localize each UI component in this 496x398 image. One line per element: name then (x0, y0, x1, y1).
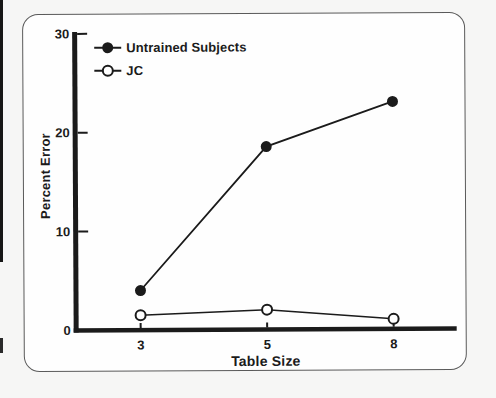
legend-label: JC (126, 63, 143, 78)
y-tick-label: 0 (63, 323, 70, 338)
legend-label: Untrained Subjects (126, 40, 246, 56)
scanned-figure: 3020100358Table SizePercent ErrorUntrain… (0, 0, 496, 398)
scan-edge-artifact-blob (0, 338, 3, 353)
y-tick-label: 20 (55, 125, 70, 140)
x-tick-label: 5 (264, 337, 271, 352)
y-tick-label: 30 (55, 26, 70, 41)
data-point-filled (387, 96, 398, 107)
x-tick-label: 8 (390, 336, 397, 351)
line-chart: 3020100358Table SizePercent ErrorUntrain… (0, 0, 496, 398)
x-axis-title: Table Size (231, 353, 301, 369)
y-axis (75, 32, 77, 332)
scan-edge-artifact (0, 0, 3, 262)
data-point-filled (135, 285, 146, 296)
data-point-open (262, 305, 272, 315)
y-tick-label: 10 (56, 224, 71, 239)
legend-filled-circle-icon (102, 42, 113, 53)
legend-open-circle-icon (103, 66, 113, 76)
x-axis (74, 328, 457, 330)
x-tick-label: 3 (137, 338, 144, 353)
series-line-0 (139, 101, 393, 290)
data-point-open (136, 310, 146, 320)
data-point-open (389, 314, 399, 324)
data-point-filled (261, 141, 272, 152)
y-axis-title: Percent Error (38, 133, 53, 219)
